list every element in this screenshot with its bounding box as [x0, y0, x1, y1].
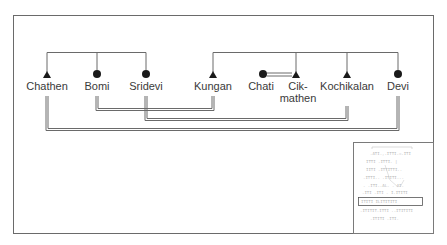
male-triangle-icon-chathen — [43, 71, 51, 78]
svg-text:ITITI ILITITITI: ITITI ILITITITI — [361, 199, 398, 204]
svg-text:.ATI.,.ITTI.=.ITI: .ATI.,.ITTI.=.ITI — [370, 151, 412, 156]
label-chati: Chati — [248, 80, 274, 92]
female-circle-icon-sridevi — [142, 70, 150, 78]
label-cikmathen-line1: Cik- — [288, 80, 308, 92]
female-circle-icon-devi — [394, 70, 402, 78]
svg-text:.ITITI .ITI.: .ITITI .ITI. — [370, 216, 399, 221]
svg-text:.ITTI.. .ITITI...: .ITTI.. .ITITI... — [363, 175, 404, 180]
label-cikmathen-line2: mathen — [280, 92, 317, 104]
male-triangle-icon-kochikalan — [343, 71, 351, 78]
svg-text:.ITITIT.ITTI ..ITITITI: .ITITIT.ITTI ..ITITITI — [360, 208, 414, 213]
label-kungan: Kungan — [194, 80, 232, 92]
svg-text:ITTI .ITTI. |: ITTI .ITTI. | — [366, 159, 397, 164]
label-chathen: Chathen — [26, 80, 68, 92]
svg-text:. .ITI..AL. . AI.: . .ITI..AL. . AI. — [363, 183, 404, 188]
sibling-bracket-left — [47, 53, 146, 73]
kinship-diagram: Chathen Bomi Sridevi Kungan Chati Cik- m… — [0, 0, 447, 245]
sibling-bracket-right — [213, 53, 398, 73]
label-devi: Devi — [387, 80, 409, 92]
marriage-line-chati-cikmathen — [267, 73, 292, 76]
male-triangle-icon-cikmathen — [292, 71, 300, 78]
label-kochikalan: Kochikalan — [320, 80, 374, 92]
label-sridevi: Sridevi — [129, 80, 163, 92]
svg-text:.ITI .ITI . I.ITITI: .ITI .ITI . I.ITITI — [362, 190, 408, 195]
inset-thumbnail: .ATI.,.ITTI.=.ITI ITTI .ITTI. | IITI .IT… — [354, 143, 434, 234]
label-bomi: Bomi — [84, 80, 109, 92]
male-triangle-icon-kungan — [209, 71, 217, 78]
female-circle-icon-bomi — [93, 70, 101, 78]
svg-text:IITI .ITTITTI..: IITI .ITTITTI.. — [366, 167, 402, 172]
female-circle-icon-chati — [259, 70, 267, 78]
marriage-line-bomi-kungan — [96, 96, 214, 111]
